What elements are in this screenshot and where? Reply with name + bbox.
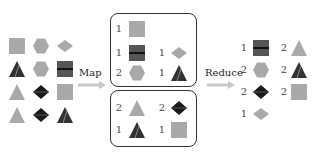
square-icon <box>56 83 74 101</box>
square-icon <box>128 20 146 38</box>
count-label: 2 <box>158 102 166 114</box>
square-icon <box>290 83 308 101</box>
count-label: 1 <box>158 47 166 59</box>
triangle-icon <box>8 83 26 101</box>
black-diamond-icon <box>252 83 270 101</box>
input-shapes-grid <box>8 37 74 127</box>
count-label: 1 <box>158 124 166 136</box>
dark-square-icon <box>252 39 270 57</box>
diamond-icon <box>252 105 270 123</box>
dark-triangle-icon <box>290 61 308 79</box>
count-label: 2 <box>240 64 248 76</box>
count-label: 2 <box>115 102 123 114</box>
black-diamond-icon <box>32 106 50 124</box>
diamond-icon <box>170 44 188 62</box>
reduce-output: 1 2 2 2 2 2 1 <box>240 38 316 128</box>
diamond-icon <box>56 37 74 55</box>
map-label: Map <box>79 67 102 78</box>
count-label: 2 <box>240 86 248 98</box>
map-group-1: 1 1 1 2 1 <box>110 13 197 87</box>
black-diamond-icon <box>170 99 188 117</box>
count-label: 1 <box>115 23 123 35</box>
hexagon-icon <box>32 60 50 78</box>
count-label: 1 <box>240 108 248 120</box>
count-label: 1 <box>115 47 123 59</box>
count-label: 2 <box>115 67 123 79</box>
triangle-icon <box>8 106 26 124</box>
square-icon <box>170 121 188 139</box>
count-label: 1 <box>158 67 166 79</box>
map-arrow-icon <box>78 81 106 89</box>
dark-triangle-icon <box>170 64 188 82</box>
square-icon <box>8 37 26 55</box>
black-diamond-icon <box>32 83 50 101</box>
reduce-arrow-icon <box>207 81 235 89</box>
dark-square-icon <box>56 60 74 78</box>
dark-triangle-icon <box>56 106 74 124</box>
dark-square-icon <box>128 44 146 62</box>
triangle-icon <box>128 99 146 117</box>
hexagon-icon <box>32 37 50 55</box>
hexagon-icon <box>252 61 270 79</box>
dark-triangle-icon <box>128 121 146 139</box>
count-label: 2 <box>280 42 288 54</box>
triangle-icon <box>290 39 308 57</box>
reduce-label: Reduce <box>205 67 243 78</box>
count-label: 2 <box>280 64 288 76</box>
count-label: 1 <box>240 42 248 54</box>
count-label: 1 <box>115 124 123 136</box>
hexagon-icon <box>128 64 146 82</box>
count-label: 2 <box>280 86 288 98</box>
dark-triangle-icon <box>8 60 26 78</box>
map-group-2: 2 2 1 1 <box>110 90 197 147</box>
